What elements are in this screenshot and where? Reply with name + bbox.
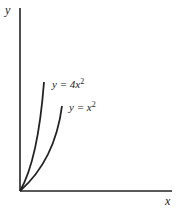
label-x-squared: y = x2 [68,100,96,113]
label-4x-squared: y = 4x2 [51,77,84,90]
y-axis-label: y [4,3,11,17]
chart: y x y = 4x2 y = x2 [0,0,185,209]
curve-4x-squared [20,82,44,191]
x-axis-label: x [164,194,171,208]
